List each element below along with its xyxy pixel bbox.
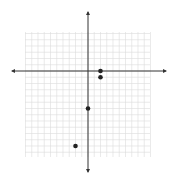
arrow-left-icon [11, 69, 15, 73]
coordinate-plane [0, 0, 172, 174]
data-point [98, 75, 103, 80]
data-point [86, 106, 91, 111]
axes [11, 11, 167, 173]
data-point [98, 69, 103, 74]
data-point [73, 144, 78, 149]
arrow-right-icon [163, 69, 167, 73]
arrow-up-icon [86, 11, 90, 15]
arrow-down-icon [86, 169, 90, 173]
